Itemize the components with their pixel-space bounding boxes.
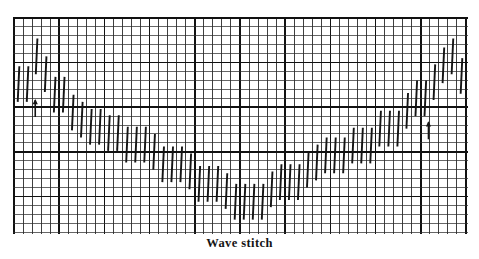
stitch — [126, 127, 128, 163]
stitch — [153, 134, 155, 170]
stitch — [307, 152, 309, 188]
stitch — [271, 171, 273, 207]
stitch — [361, 128, 363, 164]
figure-container: Wave stitch — [0, 0, 479, 259]
stitch — [415, 80, 417, 116]
arrow-head — [426, 121, 431, 126]
stitch — [135, 127, 137, 163]
stitch — [108, 115, 110, 151]
wave-stitch-chart — [0, 0, 479, 259]
stitch — [434, 64, 436, 100]
stitch — [352, 128, 354, 164]
stitch — [425, 80, 427, 116]
stitch — [189, 154, 191, 190]
stitch — [370, 128, 372, 164]
stitch — [443, 47, 445, 83]
stitch — [461, 58, 463, 94]
stitch — [45, 56, 47, 92]
stitch — [452, 39, 454, 75]
stitch — [316, 145, 318, 181]
stitch — [144, 127, 146, 163]
stitch — [117, 115, 119, 151]
figure-caption: Wave stitch — [0, 236, 479, 251]
arrow-head — [33, 99, 38, 104]
stitch — [36, 39, 38, 75]
stitch — [99, 109, 101, 145]
stitch — [90, 109, 92, 145]
start-arrow-right — [426, 121, 431, 139]
